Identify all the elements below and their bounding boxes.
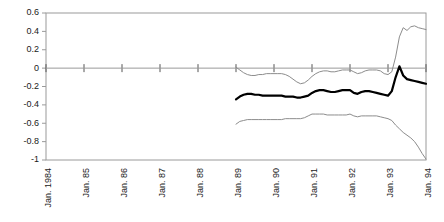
y-tick-label: -0.4 [23,99,39,109]
y-tick-label: -1 [31,154,39,164]
x-tick-label: Jan. 88 [195,168,205,198]
y-tick-label: -0.2 [23,81,39,91]
y-tick-label: 0.2 [26,44,39,54]
x-tick-label: Jan. 1984 [43,168,53,208]
series-line-lower-band [236,114,426,159]
x-axis-tick-labels: Jan. 1984Jan. 85Jan. 86Jan. 87Jan. 88Jan… [43,168,433,208]
x-tick-label: Jan. 94 [423,168,433,198]
y-axis-ticks [42,13,46,160]
x-tick-label: Jan. 87 [157,168,167,198]
y-tick-label: 0.4 [26,26,39,36]
chart-container: 0.60.40.20-0.2-0.4-0.6-0.8-1 Jan. 1984Ja… [0,0,444,222]
x-tick-label: Jan. 86 [119,168,129,198]
y-axis-tick-labels: 0.60.40.20-0.2-0.4-0.6-0.8-1 [23,7,39,164]
y-tick-label: -0.8 [23,136,39,146]
x-tick-label: Jan. 90 [271,168,281,198]
x-tick-label: Jan. 85 [81,168,91,198]
x-tick-label: Jan. 93 [385,168,395,198]
y-tick-label: 0 [34,63,39,73]
data-series-group [236,26,426,159]
plot-area-border [46,13,426,160]
x-tick-label: Jan. 89 [233,168,243,198]
y-tick-label: 0.6 [26,7,39,17]
x-tick-label: Jan. 91 [309,168,319,198]
time-series-chart: 0.60.40.20-0.2-0.4-0.6-0.8-1 Jan. 1984Ja… [0,0,444,222]
series-line-center-estimate [236,66,426,99]
x-tick-label: Jan. 92 [347,168,357,198]
y-tick-label: -0.6 [23,118,39,128]
plot-frame [46,13,426,160]
